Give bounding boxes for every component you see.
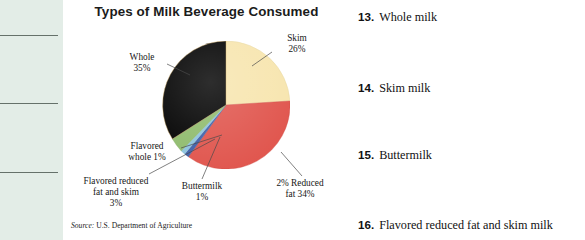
question-item-13[interactable]: 13.Whole milk	[358, 7, 437, 25]
question-list: 13.Whole milk 14.Skim milk 15.Buttermilk…	[350, 0, 585, 240]
answer-line[interactable]	[0, 172, 58, 173]
question-text: Whole milk	[379, 10, 437, 24]
question-text: Flavored reduced fat and skim milk	[379, 218, 553, 232]
pie-label-skim: Skim 26%	[274, 33, 320, 55]
pie-label-2-percent-reduced-fat: 2% Reduced fat 34%	[260, 178, 340, 200]
question-number: 14.	[358, 81, 374, 94]
pie-label-buttermilk: Buttermilk 1%	[171, 181, 233, 203]
question-item-15[interactable]: 15.Buttermilk	[358, 145, 432, 163]
answer-line[interactable]	[0, 103, 58, 104]
question-number: 15.	[358, 148, 374, 161]
question-number: 13.	[358, 10, 374, 23]
question-text: Skim milk	[379, 81, 430, 95]
answer-line[interactable]	[0, 35, 58, 36]
chart-source-note: Source: U.S. Department of Agriculture	[71, 221, 192, 230]
worksheet-page: Types of Milk Beverage Consumed	[0, 0, 585, 240]
pie-label-whole: Whole 35%	[118, 52, 166, 74]
source-text: U.S. Department of Agriculture	[94, 221, 192, 230]
pie-label-flavored-whole: Flavored whole 1%	[111, 141, 183, 163]
source-keyword: Source:	[71, 221, 94, 230]
pie-chart-figure: Types of Milk Beverage Consumed	[63, 0, 350, 240]
question-item-14[interactable]: 14.Skim milk	[358, 78, 430, 96]
question-number: 16.	[358, 218, 374, 231]
question-text: Buttermilk	[379, 148, 432, 162]
chart-title: Types of Milk Beverage Consumed	[63, 4, 350, 19]
question-item-16[interactable]: 16.Flavored reduced fat and skim milk	[358, 215, 553, 233]
pie-label-flavored-reduced-fat-and-skim: Flavored reduced fat and skim 3%	[67, 176, 165, 209]
answer-panel	[0, 0, 63, 240]
